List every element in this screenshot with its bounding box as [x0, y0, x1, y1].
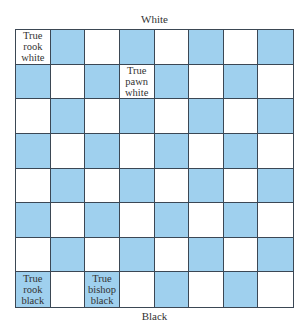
- board-square-r4-c3: [120, 169, 155, 204]
- board-square-r1-c1: [51, 65, 86, 100]
- board-square-r5-c1: [51, 203, 86, 238]
- board-square-r5-c2: [85, 203, 120, 238]
- board-square-r2-c7: [258, 99, 293, 134]
- board-square-r7-c7: [258, 272, 293, 307]
- board-square-r1-c5: [189, 65, 224, 100]
- board-square-r4-c2: [85, 169, 120, 204]
- board-square-r3-c6: [224, 134, 259, 169]
- board-square-r2-c5: [189, 99, 224, 134]
- board-square-r6-c2: [85, 238, 120, 273]
- board-square-r3-c7: [258, 134, 293, 169]
- board-square-r2-c3: [120, 99, 155, 134]
- board-square-r3-c5: [189, 134, 224, 169]
- board-square-r6-c0: [16, 238, 51, 273]
- board-square-r1-c4: [155, 65, 190, 100]
- board-square-r0-c2: [85, 30, 120, 65]
- board-square-r4-c1: [51, 169, 86, 204]
- board-square-r3-c0: [16, 134, 51, 169]
- board-square-r0-c1: [51, 30, 86, 65]
- board-square-r6-c3: [120, 238, 155, 273]
- board-square-r5-c6: [224, 203, 259, 238]
- board-square-r0-c4: [155, 30, 190, 65]
- board-square-r7-c2: True bishop black: [85, 272, 120, 307]
- board-square-r6-c7: [258, 238, 293, 273]
- board-square-r4-c5: [189, 169, 224, 204]
- board-square-r1-c0: [16, 65, 51, 100]
- board-square-r1-c2: [85, 65, 120, 100]
- white-side-label: White: [15, 13, 294, 25]
- board-square-r7-c1: [51, 272, 86, 307]
- board-square-r3-c4: [155, 134, 190, 169]
- board-square-r5-c0: [16, 203, 51, 238]
- board-square-r0-c0: True rook white: [16, 30, 51, 65]
- board-square-r2-c2: [85, 99, 120, 134]
- board-square-r5-c5: [189, 203, 224, 238]
- board-square-r7-c6: [224, 272, 259, 307]
- board-square-r5-c3: [120, 203, 155, 238]
- board-square-r1-c6: [224, 65, 259, 100]
- board-square-r4-c4: [155, 169, 190, 204]
- board-square-r4-c7: [258, 169, 293, 204]
- black-side-label: Black: [15, 310, 294, 322]
- board-square-r6-c1: [51, 238, 86, 273]
- board-square-r5-c4: [155, 203, 190, 238]
- board-square-r1-c7: [258, 65, 293, 100]
- board-square-r5-c7: [258, 203, 293, 238]
- board-square-r0-c6: [224, 30, 259, 65]
- board-square-r7-c4: [155, 272, 190, 307]
- board-square-r0-c5: [189, 30, 224, 65]
- board-square-r7-c0: True rook black: [16, 272, 51, 307]
- piece-label: True pawn white: [125, 65, 148, 98]
- piece-label: True bishop black: [88, 273, 116, 306]
- board-square-r7-c3: [120, 272, 155, 307]
- board-square-r3-c2: [85, 134, 120, 169]
- board-square-r2-c4: [155, 99, 190, 134]
- board-square-r0-c3: [120, 30, 155, 65]
- board-square-r2-c0: [16, 99, 51, 134]
- board-square-r4-c6: [224, 169, 259, 204]
- piece-label: True rook black: [21, 273, 44, 306]
- board-square-r2-c1: [51, 99, 86, 134]
- board-square-r6-c6: [224, 238, 259, 273]
- board-square-r0-c7: [258, 30, 293, 65]
- board-square-r6-c4: [155, 238, 190, 273]
- piece-label: True rook white: [21, 30, 44, 63]
- board-square-r4-c0: [16, 169, 51, 204]
- board-square-r3-c3: [120, 134, 155, 169]
- board-square-r6-c5: [189, 238, 224, 273]
- board-square-r7-c5: [189, 272, 224, 307]
- chess-board: True rook whiteTrue pawn whiteTrue rook …: [15, 29, 294, 308]
- board-square-r2-c6: [224, 99, 259, 134]
- board-square-r3-c1: [51, 134, 86, 169]
- board-square-r1-c3: True pawn white: [120, 65, 155, 100]
